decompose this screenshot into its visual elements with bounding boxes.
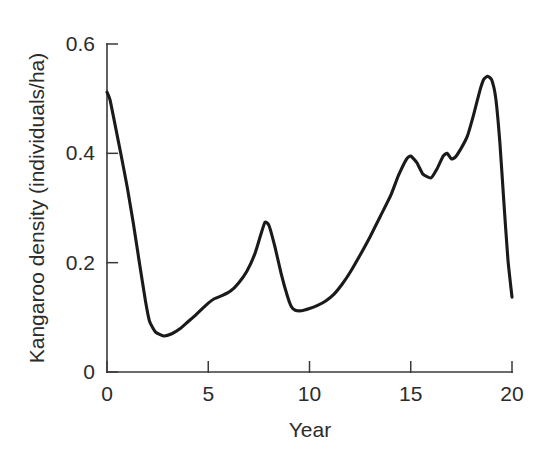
y-tick-label-0.6: 0.6 (66, 32, 95, 55)
x-tick-label-20: 20 (500, 382, 523, 405)
x-tick-label-10: 10 (298, 382, 321, 405)
y-tick-label-0.4: 0.4 (66, 141, 96, 164)
y-tick-label-0.2: 0.2 (66, 251, 95, 274)
x-axis-title: Year (289, 418, 331, 441)
y-tick-label-0: 0 (83, 360, 95, 383)
x-tick-label-15: 15 (399, 382, 422, 405)
x-axis-tick-labels: 05101520 (101, 382, 524, 405)
y-axis-title: Kangaroo density (individuals/ha) (25, 53, 48, 364)
y-axis-tick-labels: 00.20.40.6 (66, 32, 96, 383)
data-series-line (107, 76, 512, 336)
x-tick-label-5: 5 (202, 382, 214, 405)
x-tick-label-0: 0 (101, 382, 113, 405)
line-chart: 00.20.40.6 05101520 Year Kangaroo densit… (0, 0, 549, 458)
chart-figure: 00.20.40.6 05101520 Year Kangaroo densit… (0, 0, 549, 458)
